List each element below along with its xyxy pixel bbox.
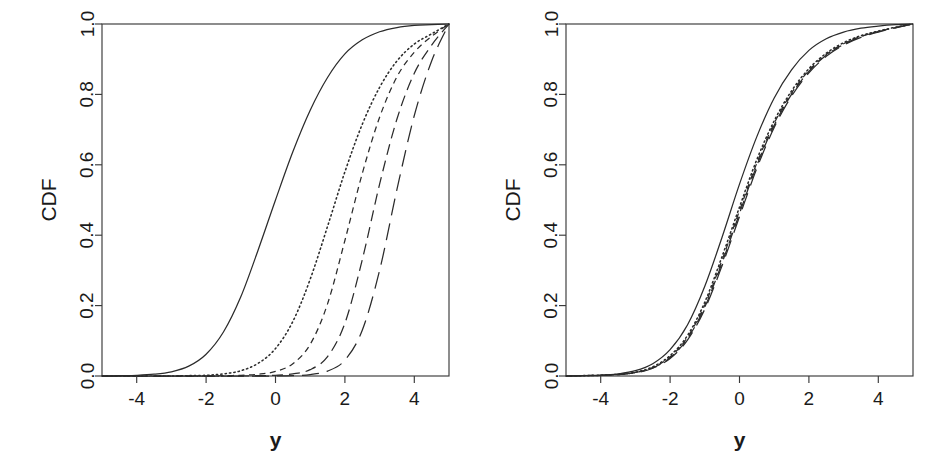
x-axis-right: -4-2024 (592, 376, 884, 409)
x-tick-label: 4 (873, 388, 884, 409)
y-axis-right: 0.00.20.40.60.81.0 (541, 11, 567, 389)
x-tick-label: -2 (662, 388, 679, 409)
y-tick-label: 0.8 (541, 81, 562, 107)
x-tick-label: 2 (340, 388, 351, 409)
x-tick-label: -4 (592, 388, 609, 409)
x-tick-label: 0 (270, 388, 281, 409)
y-axis-title: CDF (37, 178, 60, 221)
y-tick-label: 0.4 (77, 222, 98, 249)
curves-left (102, 24, 449, 376)
cdf-curve-curve-2 (566, 24, 913, 376)
axis-titles-left: yCDF (37, 178, 282, 451)
y-tick-label: 0.2 (77, 292, 98, 318)
y-tick-label: 0.4 (541, 222, 562, 249)
cdf-curve-curve-3 (566, 24, 913, 376)
plot-box (566, 24, 913, 376)
x-tick-label: 4 (409, 388, 420, 409)
plot-svg-left: -4-2024 0.00.20.40.60.81.0 yCDF (0, 0, 464, 465)
chart-panel-right: -4-2024 0.00.20.40.60.81.0 yCDF (464, 0, 928, 465)
y-axis-title: CDF (501, 178, 524, 221)
y-tick-label: 0.0 (541, 363, 562, 389)
y-tick-label: 0.6 (541, 152, 562, 178)
y-tick-label: 0.0 (77, 363, 98, 389)
y-tick-label: 1.0 (77, 11, 98, 37)
cdf-curve-curve-1 (566, 24, 913, 376)
y-tick-label: 0.2 (541, 292, 562, 318)
axis-titles-right: yCDF (501, 178, 746, 451)
figure-two-panel-cdf-plot: -4-2024 0.00.20.40.60.81.0 yCDF -4-2024 … (0, 0, 928, 465)
x-tick-label: 2 (804, 388, 815, 409)
cdf-curve-curve-5 (566, 24, 913, 376)
y-axis-left: 0.00.20.40.60.81.0 (77, 11, 103, 389)
chart-panel-left: -4-2024 0.00.20.40.60.81.0 yCDF (0, 0, 464, 465)
x-tick-label: -4 (128, 388, 145, 409)
x-tick-label: 0 (734, 388, 745, 409)
y-tick-label: 1.0 (541, 11, 562, 37)
x-axis-title: y (270, 428, 282, 451)
plot-svg-right: -4-2024 0.00.20.40.60.81.0 yCDF (464, 0, 928, 465)
x-axis-title: y (734, 428, 746, 451)
cdf-curve-curve-4 (566, 24, 913, 376)
x-tick-label: -2 (198, 388, 215, 409)
cdf-curve-curve-1 (102, 24, 449, 376)
y-tick-label: 0.8 (77, 81, 98, 107)
plot-frame-right (566, 24, 913, 376)
curves-right (566, 24, 913, 376)
y-tick-label: 0.6 (77, 152, 98, 178)
x-axis-left: -4-2024 (128, 376, 420, 409)
